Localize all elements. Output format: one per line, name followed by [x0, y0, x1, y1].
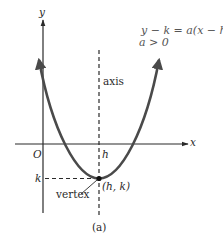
origin-label: O — [33, 149, 42, 160]
k-label: k — [35, 173, 41, 184]
figure-caption: (a) — [92, 222, 106, 233]
axis-of-symmetry-label: axis — [103, 76, 124, 87]
x-axis-label: x — [190, 137, 196, 148]
equation-line-1: y − k = a(x − h)2, — [141, 24, 223, 36]
vertex-point-label: (h, k) — [102, 181, 130, 192]
parabola-curve — [39, 60, 99, 179]
equation-text: y − k = a(x − h) — [141, 24, 223, 37]
y-axis-label: y — [39, 7, 45, 18]
vertex-label: vertex — [56, 189, 90, 200]
equation-line-2: a > 0 — [139, 37, 169, 48]
h-label: h — [102, 149, 109, 160]
